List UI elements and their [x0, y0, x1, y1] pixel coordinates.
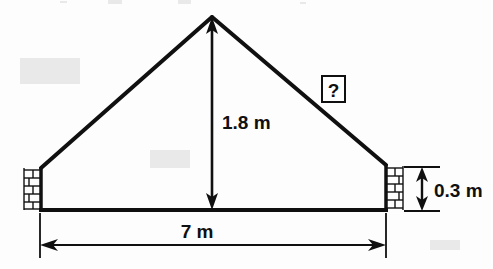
roof-right-rafter [212, 17, 386, 165]
left-brick-wall [24, 167, 41, 211]
base-label: 7 m [181, 221, 214, 242]
wall-height-label: 0.3 m [434, 180, 483, 201]
unknown-length-annotation: ? [322, 76, 345, 102]
height-dimension [206, 17, 218, 210]
question-mark: ? [328, 80, 340, 101]
height-label: 1.8 m [222, 112, 271, 133]
geometry-diagram: 1.8 m 7 m 0.3 m ? [0, 0, 493, 269]
figure-root: 1.8 m 7 m 0.3 m ? [0, 0, 493, 269]
roof-left-rafter [41, 17, 212, 168]
right-brick-wall [386, 164, 403, 211]
